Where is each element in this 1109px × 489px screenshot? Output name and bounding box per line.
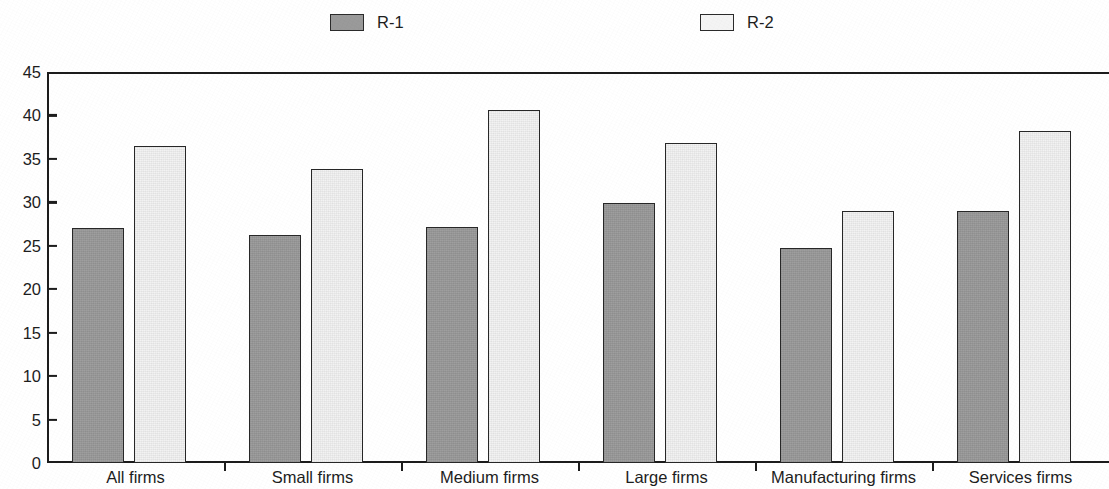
x-category-label: Services firms: [969, 466, 1073, 488]
bar-r-1-all-firms: [72, 228, 124, 463]
y-tick-label: 35: [0, 151, 41, 168]
y-tick-label: 5: [0, 411, 41, 428]
legend-label-r1: R-1: [377, 13, 404, 32]
bar-r-2-manufacturing-firms: [842, 211, 894, 463]
x-category-label: Large firms: [625, 466, 708, 488]
y-tick-label: 10: [0, 368, 41, 385]
legend-label-r2: R-2: [747, 13, 774, 32]
legend-entry-r1: R-1: [330, 11, 404, 33]
y-tick-label: 20: [0, 281, 41, 298]
x-axis-category-labels: All firmsSmall firmsMedium firmsLarge fi…: [47, 466, 1109, 489]
chart-legend: R-1 R-2: [0, 0, 1109, 46]
bar-r-1-services-firms: [957, 211, 1009, 463]
legend-swatch-r1-icon: [330, 14, 364, 31]
bar-r-2-small-firms: [311, 169, 363, 463]
bar-r-2-large-firms: [665, 143, 717, 463]
x-category-label: Small firms: [272, 466, 354, 488]
y-tick-label: 40: [0, 107, 41, 124]
bar-r-1-manufacturing-firms: [780, 248, 832, 463]
y-tick-label: 15: [0, 324, 41, 341]
legend-entry-r2: R-2: [700, 11, 774, 33]
y-tick-label: 25: [0, 238, 41, 255]
bar-r-2-services-firms: [1019, 131, 1071, 463]
x-category-label: All firms: [106, 466, 165, 488]
bar-r-1-large-firms: [603, 203, 655, 463]
y-tick-label: 30: [0, 194, 41, 211]
y-tick-label: 45: [0, 64, 41, 81]
bar-r-1-small-firms: [249, 235, 301, 463]
y-axis-tick-labels: 051015202530354045: [0, 72, 41, 463]
legend-swatch-r2-icon: [700, 14, 734, 31]
y-tick-label: 0: [0, 455, 41, 472]
bar-r-1-medium-firms: [426, 227, 478, 463]
bar-r-2-all-firms: [134, 146, 186, 463]
x-category-label: Manufacturing firms: [771, 466, 916, 488]
bars-layer: [47, 72, 1109, 463]
x-category-label: Medium firms: [440, 466, 539, 488]
bar-r-2-medium-firms: [488, 110, 540, 463]
bar-chart-figure: R-1 R-2 051015202530354045 All firmsSmal…: [0, 0, 1109, 489]
